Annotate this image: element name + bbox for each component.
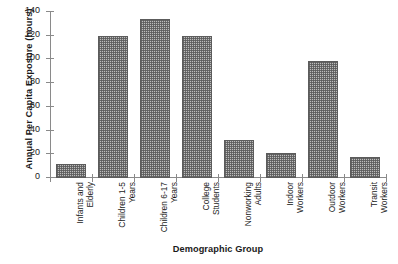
- x-axis-tick-labels: Infants andElderlyChildren 1-5YearsChild…: [50, 182, 386, 240]
- plot-area: 020406080100120140: [50, 12, 386, 178]
- bar: [266, 153, 296, 178]
- bar: [182, 36, 212, 178]
- y-axis-tick-label: 40: [30, 124, 40, 135]
- bar: [56, 164, 86, 178]
- y-axis-tick-label: 20: [30, 147, 40, 158]
- x-axis-tick-label-line: Elderly: [86, 182, 96, 240]
- bar: [140, 19, 170, 178]
- bar: [308, 61, 338, 178]
- x-axis-tick-label: TransitWorkers: [370, 182, 384, 240]
- x-axis-tick-label: Children 6-17Years: [160, 182, 174, 240]
- y-axis-tick-label: 60: [30, 100, 40, 111]
- x-axis-tick-label: Children 1-5Years: [118, 182, 132, 240]
- x-axis-tick-label: Infants andElderly: [76, 182, 90, 240]
- x-axis-tick-label-line: Years: [170, 182, 180, 240]
- bars-layer: [50, 12, 386, 178]
- x-axis-tick-label-line: Adults: [254, 182, 264, 240]
- bar: [224, 140, 254, 178]
- y-axis-tick-label: 140: [25, 5, 40, 16]
- y-axis-tick-label: 120: [25, 29, 40, 40]
- bar: [98, 36, 128, 178]
- bar-chart: Annual Per Capita Exposure (hours) 02040…: [0, 0, 398, 264]
- x-axis-tick-label: OutdoorWorkers: [328, 182, 342, 240]
- x-axis-tick-label-line: Students: [212, 182, 222, 240]
- x-axis-tick-label: NonworkingAdults: [244, 182, 258, 240]
- x-axis-tick-label-line: Years: [128, 182, 138, 240]
- x-axis-tick: [386, 174, 387, 182]
- y-axis-tick-label: 0: [35, 171, 40, 182]
- x-axis-tick-label-line: Workers: [380, 182, 390, 240]
- x-axis-tick-label: CollegeStudents: [202, 182, 216, 240]
- y-axis-tick-label: 80: [30, 76, 40, 87]
- x-axis-tick-label: IndoorWorkers: [286, 182, 300, 240]
- x-axis-title: Demographic Group: [50, 244, 386, 254]
- bar: [350, 157, 380, 178]
- x-axis-tick-label-line: Workers: [296, 182, 306, 240]
- x-axis-tick-label-line: Workers: [338, 182, 348, 240]
- y-axis-tick-label: 100: [25, 52, 40, 63]
